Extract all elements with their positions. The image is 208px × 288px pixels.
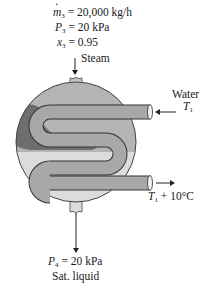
inlet-quality-label: x3 = 0.95 (57, 36, 98, 53)
steam-label: Steam (81, 52, 110, 65)
water-inlet-pipe-end (148, 105, 153, 120)
condenser-diagram (0, 0, 208, 288)
water-outlet-pipe-end (148, 176, 153, 191)
water-outlet-temp-label: T1 + 10°C (148, 190, 194, 207)
outlet-state-label: Sat. liquid (52, 270, 99, 283)
water-inlet-temp-label: T1 (183, 100, 193, 117)
